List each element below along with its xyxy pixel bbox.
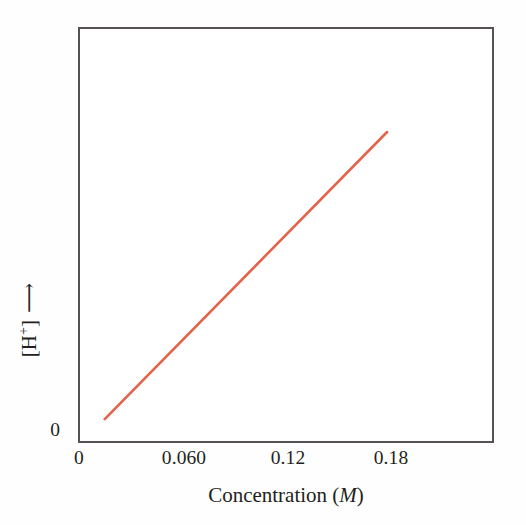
x-axis-title-text: Concentration ( bbox=[208, 483, 339, 507]
x-axis-title-symbol: M bbox=[339, 483, 357, 507]
x-axis-tick-label-1: 0.060 bbox=[162, 447, 206, 469]
y-axis-tick-label-0: 0 bbox=[50, 419, 60, 441]
chart-figure: [H+] ⟶ 0 0 0.060 0.12 0.18 Concentration… bbox=[0, 0, 526, 525]
y-axis-title-container: [H+] ⟶ bbox=[16, 160, 64, 320]
x-axis-tick-label-2: 0.12 bbox=[271, 447, 306, 469]
y-axis-superscript: + bbox=[15, 327, 31, 335]
data-line-series-1 bbox=[105, 132, 387, 419]
up-arrow-icon: ⟶ bbox=[19, 283, 40, 313]
y-axis-bracket-close: ] bbox=[17, 320, 41, 327]
x-axis-tick-label-0: 0 bbox=[74, 447, 84, 469]
y-axis-title-text: [H+] bbox=[19, 320, 40, 357]
y-axis-title: [H+] ⟶ bbox=[19, 283, 40, 357]
x-axis-title: Concentration (M) bbox=[78, 483, 494, 508]
plot-svg bbox=[80, 29, 492, 441]
y-axis-bracket-open: [H bbox=[17, 335, 41, 357]
plot-area bbox=[78, 27, 494, 443]
x-axis-title-close: ) bbox=[357, 483, 364, 507]
x-axis-tick-label-3: 0.18 bbox=[374, 447, 409, 469]
